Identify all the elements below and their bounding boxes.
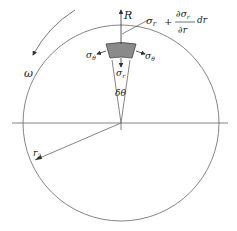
sigma-theta-left-arrow — [97, 51, 106, 54]
label-r2: r2 — [33, 148, 41, 159]
radius-r2-line — [35, 123, 121, 160]
label-sigma-r-bottom: σr — [116, 68, 126, 79]
label-partial-den: ∂r — [178, 25, 188, 35]
label-sigma-r-top: σr — [146, 15, 157, 28]
label-partial-num: ∂σr — [176, 9, 191, 20]
label-omega: ω — [24, 67, 33, 80]
omega-rotation-arrow — [33, 10, 75, 55]
label-delta-theta: δθ — [115, 88, 126, 98]
sigma-theta-right-arrow — [136, 51, 145, 54]
label-sigma-theta-left: σθ — [86, 50, 96, 61]
disc-diagram: R σr + ∂σr dr ∂r σθ σθ σr δθ ω r2 — [0, 0, 237, 231]
label-dr: dr — [197, 15, 208, 25]
label-sigma-theta-right: σθ — [145, 51, 155, 62]
stress-element — [106, 43, 136, 59]
label-R: R — [123, 9, 132, 22]
label-plus: + — [164, 16, 172, 27]
